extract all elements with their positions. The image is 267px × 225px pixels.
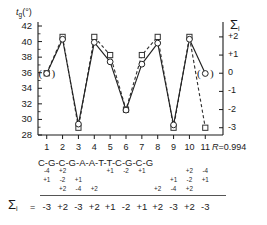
increment-row2-col1: +1	[39, 177, 54, 183]
y2-axis-tick-label-p1: +1	[228, 50, 250, 59]
x-axis-tick-label-3: 3	[71, 143, 85, 152]
increment-row1-col7: +1	[134, 168, 149, 174]
sum-value-5: +1	[102, 202, 118, 212]
increment-row1-col2: +2	[55, 168, 70, 174]
data-point-square-8[interactable]	[155, 34, 160, 39]
data-point-circle-5[interactable]	[107, 59, 113, 65]
sum-value-10: +2	[181, 202, 197, 212]
y-axis-tick-label-34: 34	[12, 83, 32, 93]
sigma-symbol: Σ	[230, 17, 238, 32]
y-axis-label: tg(°)	[16, 8, 32, 19]
sum-value-1: -3	[39, 202, 55, 212]
increment-row3-col3: -4	[71, 186, 86, 192]
bracket-close-square-1: )	[51, 67, 55, 80]
bracket-open-square-1: (	[38, 67, 42, 80]
x-axis-tick-label-1: 1	[40, 143, 54, 152]
y-axis-tick-label-42: 42	[12, 21, 32, 31]
y2-axis-label: Σi	[230, 18, 240, 32]
increment-row1-col11: -4	[198, 168, 213, 174]
bracket-close-circle-11: )	[210, 67, 214, 80]
increment-row1-col6: -2	[119, 168, 134, 174]
data-point-circle-6[interactable]	[123, 107, 129, 113]
data-point-circle-9[interactable]	[171, 122, 177, 128]
x-axis-tick-label-10: 10	[182, 143, 196, 152]
sum-value-11: -3	[197, 202, 213, 212]
increment-row2-col9: +1	[166, 177, 181, 183]
sum-sigma-symbol: Σ	[8, 197, 16, 212]
data-point-square-4[interactable]	[92, 34, 97, 39]
increment-row2-col3: +1	[71, 177, 86, 183]
y-axis-tick-label-40: 40	[12, 37, 32, 47]
increment-row2-col11: +1	[198, 177, 213, 183]
x-axis-tick-label-8: 8	[151, 143, 165, 152]
bracket-open-circle-11: (	[197, 67, 201, 80]
correlation-annotation: R=0.994	[212, 143, 246, 152]
data-point-circle-2[interactable]	[60, 36, 66, 42]
y-axis-tick-label-30: 30	[12, 114, 32, 124]
sum-value-4: +2	[86, 202, 102, 212]
sum-value-9: -3	[166, 202, 182, 212]
sum-value-6: -2	[118, 202, 134, 212]
data-point-circle-3[interactable]	[76, 121, 82, 127]
sum-value-2: +2	[55, 202, 71, 212]
y2-axis-tick-label-p2: +2	[228, 32, 250, 41]
x-axis-tick-label-2: 2	[56, 143, 70, 152]
plot-area: ()()	[0, 0, 267, 225]
x-axis-tick-label-9: 9	[167, 143, 181, 152]
y-axis-tick-label-28: 28	[12, 130, 32, 140]
increment-row1-col10: +2	[182, 168, 197, 174]
sum-row-label: Σi	[8, 198, 18, 212]
sum-row-subscript: i	[16, 205, 18, 212]
data-point-square-11[interactable]	[203, 125, 208, 130]
figure-canvas: ()() tg(°) Σi R=0.994 C-G-C-G-A-A-T-T-C-…	[0, 0, 267, 225]
increment-row3-col9: -4	[166, 186, 181, 192]
x-axis-tick-label-5: 5	[103, 143, 117, 152]
increment-row1-col1: -4	[39, 168, 54, 174]
data-point-square-7[interactable]	[139, 52, 144, 57]
increment-row3-col4: +2	[87, 186, 102, 192]
data-point-circle-11[interactable]	[202, 71, 208, 77]
increment-row2-col10: -2	[182, 177, 197, 183]
increment-row3-col8: +2	[150, 186, 165, 192]
dna-sequence: C-G-C-G-A-A-T-T-C-G-C-G	[38, 158, 153, 168]
sum-divider	[40, 195, 226, 196]
data-point-circle-4[interactable]	[91, 39, 97, 45]
data-point-circle-7[interactable]	[139, 61, 145, 67]
data-point-circle-8[interactable]	[155, 40, 161, 46]
increment-row2-col2: -2	[55, 177, 70, 183]
y-axis-tick-label-32: 32	[12, 99, 32, 109]
x-axis-tick-label-4: 4	[87, 143, 101, 152]
sum-value-3: -3	[70, 202, 86, 212]
y-axis-tick-label-36: 36	[12, 68, 32, 78]
data-point-square-5[interactable]	[108, 52, 113, 57]
y2-axis-tick-label-m1: -1	[228, 86, 250, 95]
increment-row3-col2: +2	[55, 186, 70, 192]
y-axis-label-unit: (°)	[22, 7, 32, 17]
correlation-number: 0.994	[224, 142, 247, 152]
y2-axis-tick-label-m2: -2	[228, 105, 250, 114]
sum-value-7: +1	[134, 202, 150, 212]
data-point-circle-1[interactable]	[44, 71, 50, 77]
y2-axis-tick-label-m3: -3	[228, 123, 250, 132]
x-axis-tick-label-11: 11	[198, 143, 212, 152]
x-axis-tick-label-7: 7	[135, 143, 149, 152]
sum-value-8: +2	[150, 202, 166, 212]
data-point-circle-10[interactable]	[187, 36, 193, 42]
sum-row-equals: =	[30, 203, 35, 212]
increment-row1-col5: +1	[103, 168, 118, 174]
y2-axis-tick-label-0: 0	[228, 68, 250, 77]
x-axis-tick-label-6: 6	[119, 143, 133, 152]
increment-row3-col10: +2	[182, 186, 197, 192]
y-axis-tick-label-38: 38	[12, 52, 32, 62]
